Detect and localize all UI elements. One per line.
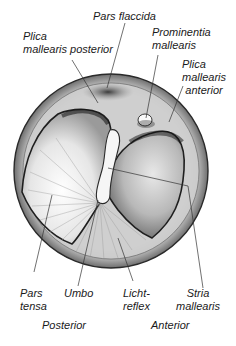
- label-lichtreflex: Licht- reflex: [123, 287, 150, 313]
- orientation-posterior: Posterior: [42, 319, 86, 332]
- label-text: mallearis: [176, 300, 220, 313]
- label-text: Plica: [23, 30, 113, 43]
- orientation-anterior: Anterior: [151, 319, 190, 332]
- label-text: Umbo: [64, 287, 93, 300]
- label-text: Prominentia: [152, 26, 211, 39]
- label-text: Stria: [176, 287, 220, 300]
- label-prominentia-mallearis: Prominentia mallearis: [152, 26, 211, 52]
- label-text: Posterior: [42, 319, 86, 332]
- label-text: Plica: [182, 58, 226, 71]
- label-stria-mallearis: Stria mallearis: [176, 287, 220, 313]
- label-text: mallearis: [152, 39, 211, 52]
- label-text: mallearis posterior: [23, 43, 113, 56]
- label-text: Pars: [20, 287, 47, 300]
- label-plica-mallearis-anterior: Plica mallearis anterior: [182, 58, 226, 97]
- tympanic-membrane-diagram: Pars flaccida Plica mallearis posterior …: [0, 0, 236, 346]
- label-text: Pars flaccida: [93, 10, 156, 23]
- label-text: reflex: [123, 300, 150, 313]
- label-pars-tensa: Pars tensa: [20, 287, 47, 313]
- label-text: anterior: [182, 84, 226, 97]
- label-text: tensa: [20, 300, 47, 313]
- label-plica-mallearis-posterior: Plica mallearis posterior: [23, 30, 113, 56]
- label-pars-flaccida: Pars flaccida: [93, 10, 156, 23]
- label-umbo: Umbo: [64, 287, 93, 300]
- label-text: Anterior: [151, 319, 190, 332]
- label-text: Licht-: [123, 287, 150, 300]
- label-text: mallearis: [182, 71, 226, 84]
